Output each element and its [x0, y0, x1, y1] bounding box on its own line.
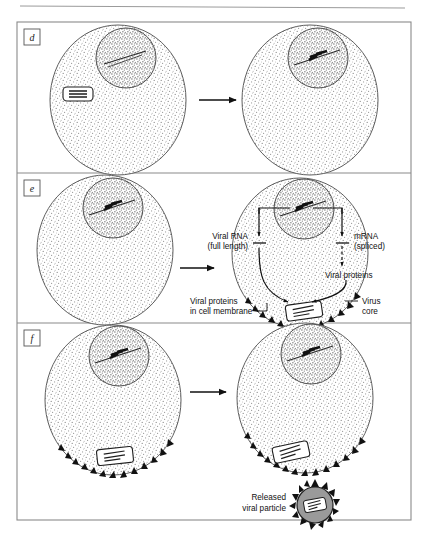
cell-e-right	[232, 178, 368, 331]
panel-e: e	[24, 175, 385, 331]
mrna-line1: mRNA	[354, 232, 379, 241]
annotation-viral-proteins: Viral proteins	[325, 271, 373, 280]
cell-f-right	[237, 323, 373, 476]
released-particle-line2: viral particle	[242, 504, 286, 513]
mrna-line2: (spliced)	[354, 242, 385, 251]
cell-f-left	[45, 325, 181, 478]
virus-replication-figure: d	[0, 0, 427, 542]
vp-membrane-line1: Viral proteins	[190, 297, 238, 306]
vp-membrane-line2: in cell membrane	[190, 307, 253, 316]
cell-e-left	[37, 175, 173, 325]
viral-core-d-left	[63, 87, 93, 101]
nucleus-e-right	[274, 179, 334, 239]
nucleus-f-left	[89, 326, 149, 386]
nucleus-e-left	[83, 178, 143, 238]
nucleus-d-right	[288, 28, 348, 88]
figure-canvas: d	[0, 0, 427, 542]
panel-f: f	[24, 323, 373, 530]
panel-e-label: e	[30, 183, 35, 194]
released-particle-line1: Released	[251, 493, 286, 502]
nucleus-d-left	[96, 28, 156, 88]
panel-d: d	[24, 25, 378, 175]
page-top-rule	[20, 6, 405, 8]
annotation-released-particle: Released viral particle	[242, 493, 286, 513]
viral-rna-line2: (full length)	[207, 242, 248, 251]
viral-proteins-label: Viral proteins	[325, 271, 373, 280]
nucleus-f-right	[281, 324, 341, 384]
virus-core-line2: core	[362, 307, 378, 316]
cell-d-right	[242, 25, 378, 175]
cell-d-left	[50, 25, 186, 175]
viral-rna-line1: Viral RNA	[212, 232, 248, 241]
annotation-mrna: mRNA (spliced)	[354, 232, 385, 251]
virus-core-line1: Virus	[362, 297, 381, 306]
budding-core-f-left	[96, 446, 133, 466]
annotation-viral-rna: Viral RNA (full length)	[207, 232, 248, 251]
released-viral-particle	[289, 479, 340, 530]
